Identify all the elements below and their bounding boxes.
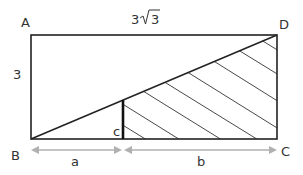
dimension-arrow-b: [124, 146, 277, 154]
segment-label-b: b: [197, 154, 205, 169]
vertex-label-d: D: [279, 17, 289, 32]
dimension-arrow-a: [31, 146, 122, 154]
segment-label-c: c: [113, 124, 120, 139]
side-label-top: 3 3: [131, 10, 160, 27]
top-coefficient: 3: [131, 12, 139, 27]
vertex-label-a: A: [21, 15, 30, 30]
top-radicand: 3: [151, 12, 159, 27]
vertex-label-b: B: [11, 148, 20, 163]
vertex-label-c: C: [281, 144, 290, 159]
geometry-diagram: A D B C 3 3 3 c a b: [0, 0, 303, 175]
segment-label-a: a: [71, 154, 79, 169]
side-label-left: 3: [13, 67, 21, 82]
